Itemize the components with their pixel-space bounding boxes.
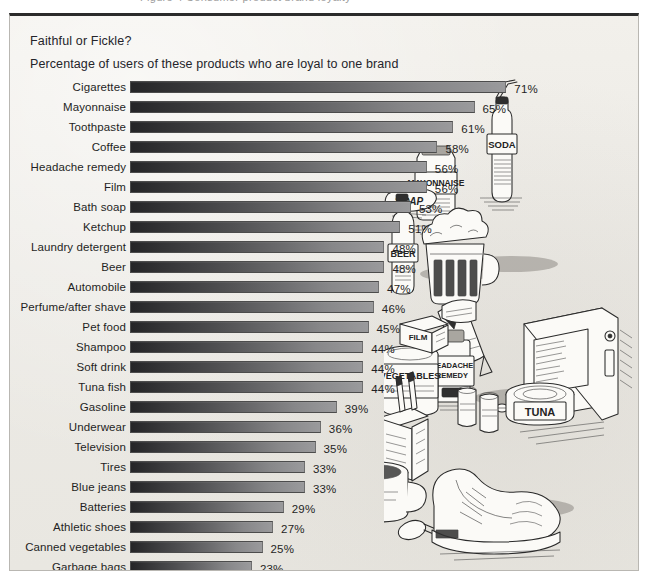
bar-value-label: 33% xyxy=(313,483,337,496)
bar-category-label: Cigarettes xyxy=(73,81,126,94)
chart-subtitle: Percentage of users of these products wh… xyxy=(30,57,590,71)
bar-row: Canned vegetables25% xyxy=(10,538,639,558)
bar-value-label: 65% xyxy=(483,103,507,116)
bar-track: 47% xyxy=(130,281,636,293)
bar xyxy=(130,561,252,571)
bar-track: 29% xyxy=(130,501,636,513)
bar-category-label: Tires xyxy=(100,461,126,474)
bar xyxy=(130,341,363,353)
bar-category-label: Perfume/after shave xyxy=(21,301,126,314)
bar xyxy=(130,181,427,193)
bar-row: Beer48% xyxy=(10,258,639,278)
cut-off-caption-text: Figure 4 Consumer product brand loyalty xyxy=(140,0,351,3)
bar-value-label: 44% xyxy=(371,343,395,356)
bar xyxy=(130,461,305,473)
bar-value-label: 71% xyxy=(514,83,538,96)
bar-category-label: Batteries xyxy=(80,501,126,514)
bar xyxy=(130,101,475,113)
bar-row: Pet food45% xyxy=(10,318,639,338)
bar-value-label: 58% xyxy=(445,143,469,156)
bar xyxy=(130,161,427,173)
bar-value-label: 48% xyxy=(392,243,416,256)
bar-category-label: Gasoline xyxy=(80,401,126,414)
bar-value-label: 48% xyxy=(392,263,416,276)
bar-category-label: Ketchup xyxy=(83,221,126,234)
bar-track: 53% xyxy=(130,201,636,213)
bar-row: Batteries29% xyxy=(10,498,639,518)
bar-chart-plot: Cigarettes71%Mayonnaise65%Toothpaste61%C… xyxy=(10,78,639,571)
bar-row: Tires33% xyxy=(10,458,639,478)
chart-title: Faithful or Fickle? xyxy=(30,34,590,48)
bar-row: Television35% xyxy=(10,438,639,458)
bar-track: 33% xyxy=(130,461,636,473)
bar-track: 65% xyxy=(130,101,636,113)
bar-category-label: Garbage bags xyxy=(52,561,126,571)
bar-row: Cigarettes71% xyxy=(10,78,639,98)
bar-category-label: Soft drink xyxy=(76,361,126,374)
bar-value-label: 39% xyxy=(345,403,369,416)
bar-track: 58% xyxy=(130,141,636,153)
bar xyxy=(130,441,316,453)
bar-category-label: Beer xyxy=(101,261,126,274)
bar-category-label: Tuna fish xyxy=(78,381,126,394)
bar xyxy=(130,381,363,393)
bar-row: Headache remedy56% xyxy=(10,158,639,178)
bar-row: Automobile47% xyxy=(10,278,639,298)
chart-heading: Faithful or Fickle? Percentage of users … xyxy=(30,34,590,71)
bar-value-label: 56% xyxy=(435,163,459,176)
bar-track: 45% xyxy=(130,321,636,333)
bar-track: 23% xyxy=(130,561,636,571)
bar-row: Perfume/after shave46% xyxy=(10,298,639,318)
bar-value-label: 29% xyxy=(292,503,316,516)
bar-row: Garbage bags23% xyxy=(10,558,639,571)
bar-row: Bath soap53% xyxy=(10,198,639,218)
bar-value-label: 25% xyxy=(271,543,295,556)
bar-track: 33% xyxy=(130,481,636,493)
bar-category-label: Film xyxy=(104,181,126,194)
bar-value-label: 47% xyxy=(387,283,411,296)
bar-value-label: 61% xyxy=(461,123,485,136)
bar-category-label: Television xyxy=(75,441,127,454)
bar-row: Coffee58% xyxy=(10,138,639,158)
bar-category-label: Bath soap xyxy=(73,201,126,214)
bar-row: Tuna fish44% xyxy=(10,378,639,398)
bar-row: Ketchup51% xyxy=(10,218,639,238)
bar-row: Blue jeans33% xyxy=(10,478,639,498)
bar xyxy=(130,521,273,533)
bar-category-label: Shampoo xyxy=(76,341,126,354)
bar-value-label: 36% xyxy=(329,423,353,436)
bar-track: 25% xyxy=(130,541,636,553)
bar-value-label: 56% xyxy=(435,183,459,196)
figure-page: Figure 4 Consumer product brand loyalty … xyxy=(0,0,655,578)
bar-track: 27% xyxy=(130,521,636,533)
bar-track: 71% xyxy=(130,81,636,93)
bar xyxy=(130,481,305,493)
bar-track: 36% xyxy=(130,421,636,433)
bar xyxy=(130,121,453,133)
bar-track: 44% xyxy=(130,361,636,373)
bar-category-label: Mayonnaise xyxy=(63,101,126,114)
bar-value-label: 46% xyxy=(382,303,406,316)
bar-track: 35% xyxy=(130,441,636,453)
bar xyxy=(130,401,337,413)
bar-category-label: Canned vegetables xyxy=(25,541,126,554)
bar xyxy=(130,261,384,273)
bar-row: Toothpaste61% xyxy=(10,118,639,138)
bar-track: 46% xyxy=(130,301,636,313)
bar-category-label: Blue jeans xyxy=(71,481,126,494)
bar-track: 61% xyxy=(130,121,636,133)
bar xyxy=(130,281,379,293)
cut-off-caption: Figure 4 Consumer product brand loyalty xyxy=(0,0,655,12)
bar-track: 48% xyxy=(130,261,636,273)
bar-track: 48% xyxy=(130,241,636,253)
bar-row: Gasoline39% xyxy=(10,398,639,418)
bar-value-label: 35% xyxy=(324,443,348,456)
bar xyxy=(130,141,437,153)
bar xyxy=(130,201,411,213)
bar-row: Mayonnaise65% xyxy=(10,98,639,118)
bar xyxy=(130,541,263,553)
bar-row: Soft drink44% xyxy=(10,358,639,378)
bar xyxy=(130,361,363,373)
bar-track: 56% xyxy=(130,181,636,193)
bar-category-label: Headache remedy xyxy=(31,161,126,174)
